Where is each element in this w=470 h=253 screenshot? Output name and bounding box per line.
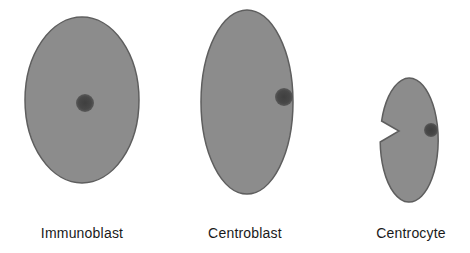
centroblast-label: Centroblast [208,225,282,241]
cell-diagram [0,0,470,253]
centroblast-cell [201,10,293,194]
centrocyte-label: Centrocyte [376,225,446,241]
centrocyte-cytoplasm-notched [380,78,438,202]
centroblast-nucleolus [275,88,293,106]
centrocyte-cell [380,78,438,202]
immunoblast-cell [25,17,139,183]
immunoblast-label: Immunoblast [41,225,123,241]
centrocyte-nucleolus [424,123,438,137]
immunoblast-nucleolus [76,94,94,112]
